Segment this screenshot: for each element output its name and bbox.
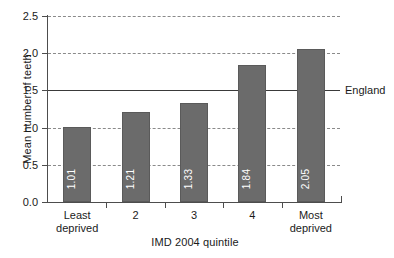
bar-4: 1.84 [238, 65, 266, 202]
bar-5: 2.05 [297, 49, 325, 202]
x-axis-tick [223, 203, 224, 208]
y-axis-label-1.0: 1.0 [0, 122, 38, 134]
y-axis-label-0.5: 0.5 [0, 159, 38, 171]
x-axis-tick [282, 203, 283, 208]
y-axis-tick [42, 202, 48, 203]
bars-group: 1.011.211.331.842.05 [48, 16, 340, 202]
bar-chart: Mean number of teeth 0.00.51.01.52.02.5 … [0, 0, 394, 258]
y-axis-label-2.0: 2.0 [0, 47, 38, 59]
bar-3: 1.33 [180, 103, 208, 202]
x-axis-category-label: Mostdeprived [275, 209, 347, 235]
x-axis-endcap [341, 196, 342, 203]
bar-1: 1.01 [63, 127, 91, 202]
x-axis-line [48, 202, 342, 203]
reference-line-label: England [345, 84, 385, 96]
bar-value-label: 1.33 [183, 169, 194, 190]
bar-value-label: 1.01 [66, 169, 77, 190]
y-axis-label-0.0: 0.0 [0, 196, 38, 208]
bar-value-label: 2.05 [300, 169, 311, 190]
bar-value-label: 1.84 [241, 169, 252, 190]
bar-value-label: 1.21 [125, 169, 136, 190]
x-axis-tick [165, 203, 166, 208]
bar-2: 1.21 [122, 112, 150, 202]
y-axis-label-1.5: 1.5 [0, 84, 38, 96]
x-axis-title: IMD 2004 quintile [48, 236, 342, 248]
x-axis-tick [106, 203, 107, 208]
y-axis-label-2.5: 2.5 [0, 10, 38, 22]
